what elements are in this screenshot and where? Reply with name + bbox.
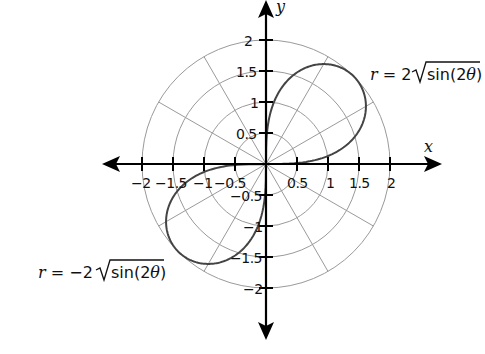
x-tick-label: 2 bbox=[387, 175, 395, 191]
eq-equals: = 2 bbox=[378, 65, 412, 84]
y-tick-label: 1.5 bbox=[236, 64, 257, 80]
y-tick-label: −1 bbox=[243, 219, 263, 235]
eq-sqrt-body: sin(2 bbox=[427, 65, 466, 84]
eq-close: ) bbox=[476, 65, 482, 84]
x-tick-label: 1 bbox=[326, 175, 334, 191]
y-tick-label: −0.5 bbox=[230, 188, 262, 204]
y-tick-label: 1 bbox=[250, 95, 258, 111]
x-tick-label: 1.5 bbox=[349, 175, 370, 191]
y-tick-label: 0.5 bbox=[236, 126, 257, 142]
y-tick-label: −2 bbox=[243, 281, 263, 297]
x-tick-label: −1 bbox=[193, 175, 213, 191]
equation-label-positive: r = 2 sin(2θ) bbox=[370, 62, 482, 84]
polar-plot: x y −2 −1.5 −1 −0.5 0.5 1 1.5 2 2 1.5 1 … bbox=[0, 0, 485, 354]
equation-label-negative: r = −2 sin(2θ) bbox=[38, 260, 166, 282]
eq-theta: θ bbox=[150, 263, 160, 282]
eq-equals: = −2 bbox=[46, 263, 93, 282]
x-tick-label: 0.5 bbox=[287, 175, 308, 191]
x-tick-label: −1.5 bbox=[155, 175, 187, 191]
eq-close: ) bbox=[160, 263, 166, 282]
x-axis-label: x bbox=[424, 137, 433, 156]
curve-positive-lemniscate bbox=[266, 64, 366, 164]
axes bbox=[112, 10, 430, 330]
y-tick-label: 2 bbox=[244, 33, 252, 49]
eq-theta: θ bbox=[466, 65, 476, 84]
svg-text:sin(2θ): sin(2θ) bbox=[111, 263, 166, 282]
y-tick-label: −1.5 bbox=[230, 250, 262, 266]
svg-text:r = −2: r = −2 bbox=[38, 263, 93, 282]
svg-text:r = 2: r = 2 bbox=[370, 65, 411, 84]
x-tick-label: −2 bbox=[131, 175, 151, 191]
y-axis-label: y bbox=[275, 0, 286, 16]
x-tick-labels: −2 −1.5 −1 −0.5 0.5 1 1.5 2 bbox=[131, 175, 395, 191]
svg-text:sin(2θ): sin(2θ) bbox=[427, 65, 482, 84]
grid-radial-line bbox=[266, 164, 373, 226]
eq-sqrt-body: sin(2 bbox=[111, 263, 150, 282]
